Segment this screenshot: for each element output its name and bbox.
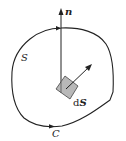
normal-label: n	[65, 6, 72, 17]
surface-diagram: n S C dS	[0, 0, 126, 141]
element-label-s: S	[79, 97, 86, 108]
curve-label: C	[52, 128, 60, 139]
boundary-curve	[12, 28, 114, 127]
surface-label: S	[21, 52, 28, 63]
curve-direction-arrow-top	[56, 26, 61, 31]
element-label: dS	[73, 97, 87, 108]
normal-axis-arrowhead	[59, 8, 64, 15]
